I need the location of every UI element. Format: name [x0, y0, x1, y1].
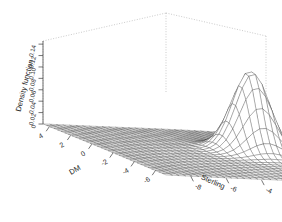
x-tick-label: 0	[80, 150, 87, 158]
plot-canvas: 0.140.120.100.080.060.040.020 420-2-4-6 …	[0, 0, 282, 222]
x-tick-label: -6	[142, 175, 151, 184]
x-tick-label: -2	[100, 158, 109, 167]
x-tick-mark	[67, 135, 70, 140]
x-tick-label: -4	[121, 167, 130, 176]
x-tick-mark	[46, 127, 49, 132]
x-tick-label: 4	[37, 132, 44, 140]
y-tick-label: -8	[194, 182, 203, 191]
x-tick-mark	[110, 153, 113, 158]
z-tick-label: 0.14	[27, 44, 37, 58]
y-tick-label: -6	[229, 184, 238, 193]
x-tick-mark	[131, 162, 134, 167]
z-axis: 0.140.120.100.080.060.040.020	[27, 41, 43, 129]
z-axis-ticks: 0.140.120.100.080.060.040.020	[27, 44, 43, 129]
x-tick-mark	[152, 171, 155, 176]
density-surface-plot: 0.140.120.100.080.060.040.020 420-2-4-6 …	[0, 0, 282, 222]
y-tick-mark	[262, 180, 265, 185]
x-tick-label: 2	[58, 141, 65, 149]
y-tick-mark	[191, 176, 194, 181]
x-tick-mark	[89, 144, 92, 149]
x-axis-title: DM	[67, 163, 82, 177]
y-tick-label: -4	[265, 186, 274, 195]
